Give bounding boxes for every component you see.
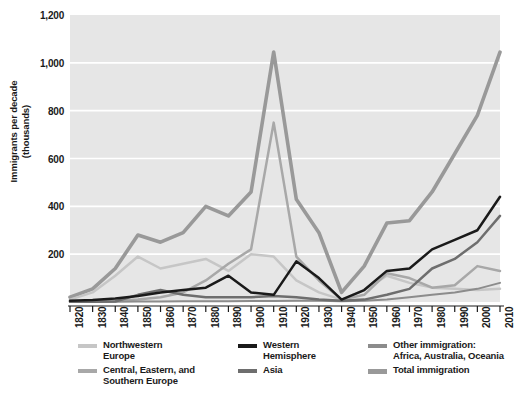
legend-item-northwestern-europe[interactable]: Northwestern Europe bbox=[78, 340, 218, 361]
x-tick-label: 1940 bbox=[346, 307, 357, 328]
legend-swatch-northwestern-europe bbox=[78, 344, 97, 348]
legend-label-western-hemisphere: Western Hemisphere bbox=[263, 340, 378, 361]
legend-swatch-central-eastern-southern-europe bbox=[78, 369, 97, 373]
x-tick-label: 2010 bbox=[504, 307, 514, 328]
x-tick-label: 1850 bbox=[142, 307, 153, 328]
legend-label-other-immigration: Other immigration: Africa, Australia, Oc… bbox=[393, 340, 514, 361]
x-tick-label: 1980 bbox=[436, 307, 447, 328]
x-tick-label: 1820 bbox=[74, 307, 85, 328]
legend-label-asia: Asia bbox=[263, 365, 378, 376]
legend-item-central-eastern-southern-europe[interactable]: Central, Eastern, and Southern Europe bbox=[78, 365, 218, 386]
legend-label-total-immigration: Total immigration bbox=[393, 365, 514, 376]
x-tick-label: 1840 bbox=[119, 307, 130, 328]
x-tick-label: 1910 bbox=[278, 307, 289, 328]
x-tick-label: 1830 bbox=[97, 307, 108, 328]
legend-column: Northwestern EuropeCentral, Eastern, and… bbox=[78, 340, 218, 386]
legend-swatch-total-immigration bbox=[368, 369, 387, 374]
x-tick-label: 1860 bbox=[165, 307, 176, 328]
legend-column: Western HemisphereAsia bbox=[238, 340, 378, 386]
x-tick-label: 1930 bbox=[323, 307, 334, 328]
x-tick-label: 1920 bbox=[300, 307, 311, 328]
legend-item-other-immigration[interactable]: Other immigration: Africa, Australia, Oc… bbox=[368, 340, 514, 361]
legend-item-western-hemisphere[interactable]: Western Hemisphere bbox=[238, 340, 378, 361]
x-tick-label: 1900 bbox=[255, 307, 266, 328]
legend-swatch-western-hemisphere bbox=[238, 344, 257, 348]
x-tick-label: 1870 bbox=[187, 307, 198, 328]
x-tick-label: 1970 bbox=[413, 307, 424, 328]
x-tick-label: 1950 bbox=[368, 307, 379, 328]
legend-item-asia[interactable]: Asia bbox=[238, 365, 378, 386]
legend-label-central-eastern-southern-europe: Central, Eastern, and Southern Europe bbox=[103, 365, 218, 386]
x-tick-label: 1960 bbox=[391, 307, 402, 328]
legend-label-northwestern-europe: Northwestern Europe bbox=[103, 340, 218, 361]
legend-item-total-immigration[interactable]: Total immigration bbox=[368, 365, 514, 386]
legend-swatch-asia bbox=[238, 369, 257, 373]
x-tick-label: 1880 bbox=[210, 307, 221, 328]
chart-legend: Northwestern EuropeCentral, Eastern, and… bbox=[78, 340, 508, 388]
legend-swatch-other-immigration bbox=[368, 344, 387, 348]
x-tick-label: 1990 bbox=[459, 307, 470, 328]
legend-column: Other immigration: Africa, Australia, Oc… bbox=[368, 340, 514, 386]
immigration-line-chart: Immigrants per decade (thousands) 1,2001… bbox=[0, 0, 514, 401]
x-tick-label: 2000 bbox=[481, 307, 492, 328]
x-tick-label: 1890 bbox=[232, 307, 243, 328]
